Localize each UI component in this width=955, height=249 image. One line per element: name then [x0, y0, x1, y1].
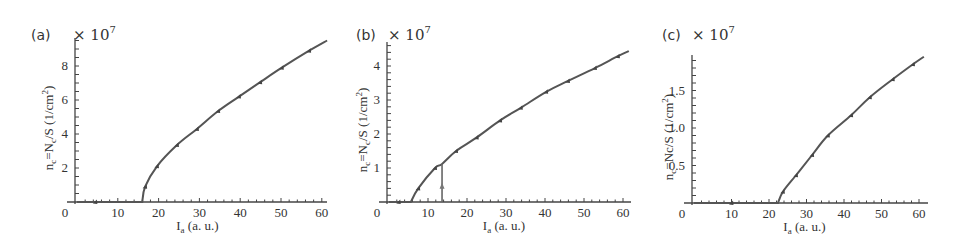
data-marker [615, 54, 620, 59]
x-tick-label: 10 [725, 206, 738, 221]
y-tick-label: 1 [374, 160, 381, 175]
data-marker [867, 95, 872, 100]
x-tick-label: 40 [838, 206, 851, 221]
y-axis-label: nc=Nc/S (1/cm2) [660, 94, 678, 180]
data-curve [694, 57, 924, 203]
data-marker [154, 164, 159, 169]
figure: (a)× 10701020304050602468Ia (a. u.)nc=Nc… [0, 0, 955, 249]
multiplier-label: × 107 [73, 24, 116, 44]
data-marker [498, 118, 503, 123]
y-tick-label: 3 [374, 92, 381, 107]
y-axis-label: nc=Nc/S (1/cm2) [40, 86, 58, 171]
y-tick-label: 4 [374, 58, 381, 73]
x-tick-label: 60 [617, 205, 630, 220]
data-marker [566, 78, 571, 83]
panel-a: (a)× 10701020304050602468Ia (a. u.)nc=Nc… [31, 24, 328, 235]
x-tick-label: 20 [152, 205, 165, 220]
panel-b: (b)× 10701020304050601234Ia (a. u.)nc=Nc… [354, 24, 631, 235]
data-marker [780, 189, 785, 194]
data-marker [849, 113, 854, 118]
x-axis-label: Ia (a. u.) [783, 219, 825, 236]
data-marker [810, 153, 815, 158]
data-marker [825, 133, 830, 138]
data-marker [911, 62, 916, 67]
x-tick-label: 10 [111, 205, 124, 220]
data-marker [236, 94, 241, 99]
data-marker [307, 48, 312, 53]
x-tick-label: 20 [461, 205, 474, 220]
panel-c: (c)× 10701020304050600.51.01.5Ia (a. u.)… [660, 24, 928, 236]
arrow-up-icon [440, 183, 445, 189]
data-marker [433, 166, 438, 171]
x-tick-label: 20 [763, 206, 776, 221]
data-marker [518, 105, 523, 110]
x-tick-label: 40 [539, 205, 552, 220]
y-axis-label: nc=Nc/S (1/cm2) [354, 88, 372, 173]
y-tick-label: 4 [62, 126, 69, 141]
x-tick-label: 0 [374, 205, 381, 220]
data-marker [794, 173, 799, 178]
data-marker [592, 66, 597, 71]
multiplier-label: × 107 [388, 24, 431, 44]
x-tick-label: 50 [578, 205, 591, 220]
x-tick-label: 40 [234, 205, 247, 220]
y-tick-label: 6 [62, 92, 69, 107]
y-tick-label: 2 [62, 160, 69, 175]
x-axis-label: Ia (a. u.) [483, 218, 525, 235]
data-marker [890, 77, 895, 82]
panel-label: (a) [31, 27, 51, 43]
data-curve [389, 51, 629, 202]
x-tick-label: 60 [913, 206, 926, 221]
data-marker [216, 109, 221, 114]
y-tick-label: 2 [374, 126, 381, 141]
data-marker [174, 143, 179, 148]
x-tick-label: 0 [679, 206, 686, 221]
panel-label: (b) [356, 27, 376, 43]
data-marker [454, 149, 459, 154]
x-tick-label: 10 [422, 205, 435, 220]
y-tick-label: 8 [62, 58, 69, 73]
data-marker [416, 186, 421, 191]
x-tick-label: 50 [875, 206, 888, 221]
x-axis-label: Ia (a. u.) [176, 218, 218, 235]
data-marker [279, 65, 284, 70]
x-tick-label: 60 [315, 205, 328, 220]
data-marker [258, 80, 263, 85]
multiplier-label: × 107 [692, 24, 735, 44]
data-marker [194, 126, 199, 130]
data-marker [474, 135, 479, 140]
data-curve [77, 41, 327, 203]
data-marker [544, 89, 549, 94]
panel-label: (c) [662, 27, 681, 43]
x-tick-label: 50 [275, 205, 288, 220]
x-tick-label: 0 [62, 205, 69, 220]
